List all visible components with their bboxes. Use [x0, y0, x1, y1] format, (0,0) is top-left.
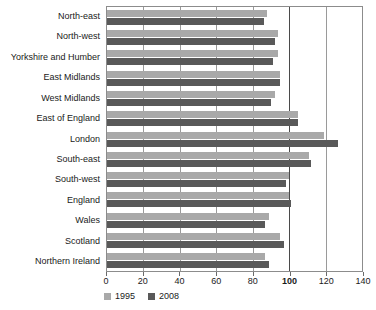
axis-tick-label: 140 — [355, 277, 370, 286]
bar — [107, 241, 284, 248]
bar — [107, 180, 286, 187]
category-label: London — [0, 129, 103, 149]
bar — [107, 10, 267, 17]
bar — [107, 261, 269, 268]
bar-group — [107, 251, 362, 271]
bar-group — [107, 129, 362, 149]
bar — [107, 71, 280, 78]
chart-legend: 19952008 — [104, 292, 179, 301]
bar-group — [107, 68, 362, 88]
bar-group — [107, 27, 362, 47]
axis-tick-label: 0 — [103, 277, 108, 286]
category-label: England — [0, 190, 103, 210]
legend-swatch-icon — [104, 293, 111, 300]
bar — [107, 50, 278, 57]
category-label: East of England — [0, 108, 103, 128]
bar — [107, 200, 291, 207]
legend-item[interactable]: 1995 — [104, 292, 135, 301]
category-axis: North-eastNorth-westYorkshire and Humber… — [0, 6, 103, 272]
bar — [107, 160, 311, 167]
bar-group — [107, 109, 362, 129]
axis-tick-label: 100 — [282, 277, 297, 286]
category-label: Scotland — [0, 231, 103, 251]
bar — [107, 192, 289, 199]
bar-group — [107, 190, 362, 210]
bar-group — [107, 230, 362, 250]
bar-group — [107, 88, 362, 108]
category-label: Northern Ireland — [0, 252, 103, 272]
bar — [107, 58, 273, 65]
bar — [107, 233, 280, 240]
bar — [107, 91, 275, 98]
axis-tick-label: 80 — [248, 277, 258, 286]
axis-tick-label: 60 — [211, 277, 221, 286]
bar — [107, 213, 269, 220]
plot-area — [106, 6, 363, 272]
category-label: North-west — [0, 26, 103, 46]
bar — [107, 253, 265, 260]
category-label: South-west — [0, 170, 103, 190]
axis-tick-label: 20 — [138, 277, 148, 286]
bar — [107, 99, 271, 106]
bar — [107, 140, 338, 147]
legend-item[interactable]: 2008 — [148, 292, 179, 301]
category-label: North-east — [0, 6, 103, 26]
bar-group — [107, 149, 362, 169]
category-label: Wales — [0, 211, 103, 231]
bar-group — [107, 48, 362, 68]
legend-label: 2008 — [159, 292, 179, 301]
bar — [107, 172, 289, 179]
category-label: East Midlands — [0, 67, 103, 87]
category-label: Yorkshire and Humber — [0, 47, 103, 67]
bar-group — [107, 170, 362, 190]
bar-group — [107, 7, 362, 27]
bar — [107, 152, 309, 159]
bar — [107, 79, 280, 86]
bar-group — [107, 210, 362, 230]
value-axis: 020406080100120140 — [106, 272, 363, 292]
bar — [107, 119, 298, 126]
axis-tick-label: 120 — [319, 277, 334, 286]
bar — [107, 18, 264, 25]
bar — [107, 132, 324, 139]
bar — [107, 30, 278, 37]
bar — [107, 221, 265, 228]
axis-tick-label: 40 — [174, 277, 184, 286]
legend-swatch-icon — [148, 293, 155, 300]
category-label: South-east — [0, 149, 103, 169]
bars-layer — [107, 7, 362, 271]
category-label: West Midlands — [0, 88, 103, 108]
legend-label: 1995 — [115, 292, 135, 301]
bar-chart: North-eastNorth-westYorkshire and Humber… — [0, 0, 376, 310]
bar — [107, 111, 298, 118]
bar — [107, 38, 275, 45]
